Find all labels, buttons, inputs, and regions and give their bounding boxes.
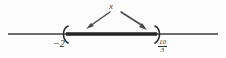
right-endpoint-label: 10 3 — [158, 39, 167, 54]
right-arrow-icon — [121, 12, 147, 30]
right-endpoint-numerator: 10 — [158, 39, 167, 46]
right-endpoint-denominator: 3 — [158, 47, 167, 54]
left-endpoint-label: −2 — [53, 38, 65, 49]
variable-label: x — [109, 1, 113, 11]
number-line-graphics — [0, 0, 226, 58]
number-line-diagram: x −2 10 3 — [0, 0, 226, 58]
left-arrow-icon — [86, 12, 110, 29]
